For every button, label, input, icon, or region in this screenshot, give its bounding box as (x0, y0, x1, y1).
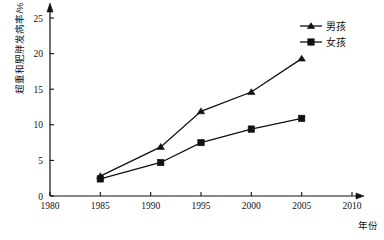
series-line (100, 118, 301, 178)
axis-group (47, 3, 364, 199)
x-tick-label: 1980 (41, 201, 60, 211)
series-line (100, 59, 301, 177)
chart-legend: 男孩女孩 (300, 20, 346, 48)
y-tick-label: 25 (34, 14, 44, 24)
y-tick-label: 5 (38, 156, 43, 166)
x-tick-label: 1985 (91, 201, 110, 211)
y-tick-label: 10 (34, 120, 44, 130)
square-marker-icon (248, 126, 254, 132)
chart-container: 1980198519901995200020052010 0510152025 … (0, 0, 384, 240)
triangle-marker-icon (298, 55, 305, 61)
x-tick-label: 1995 (192, 201, 211, 211)
series-2 (97, 115, 305, 182)
square-marker-icon (298, 115, 304, 121)
y-tick-label: 0 (38, 192, 43, 202)
series-layer (97, 55, 306, 182)
y-tick-label-group: 0510152025 (34, 14, 44, 202)
x-tick-label: 2000 (242, 201, 261, 211)
legend-label: 男孩 (326, 20, 346, 32)
square-marker-icon (198, 139, 204, 145)
y-tick-label: 15 (34, 85, 44, 95)
x-axis-title: 年份 (358, 218, 378, 232)
legend-item-1: 男孩 (300, 20, 346, 32)
y-axis-arrow-icon (47, 3, 53, 12)
y-tick-label: 20 (34, 49, 44, 59)
x-tick-label: 2010 (343, 201, 362, 211)
square-marker-icon (158, 159, 164, 165)
legend-item-2: 女孩 (300, 36, 346, 48)
x-tick-label: 1990 (141, 201, 160, 211)
square-marker-icon (97, 176, 103, 182)
line-chart-plot: 1980198519901995200020052010 0510152025 … (0, 0, 384, 240)
x-tick-label: 2005 (292, 201, 311, 211)
series-1 (97, 55, 306, 178)
y-axis-title: 超重和肥胖发病率/% (12, 0, 28, 108)
x-axis-arrow-icon (356, 193, 364, 199)
square-marker-icon (308, 39, 314, 45)
x-tick-label-group: 1980198519901995200020052010 (41, 201, 362, 211)
legend-label: 女孩 (326, 36, 346, 48)
